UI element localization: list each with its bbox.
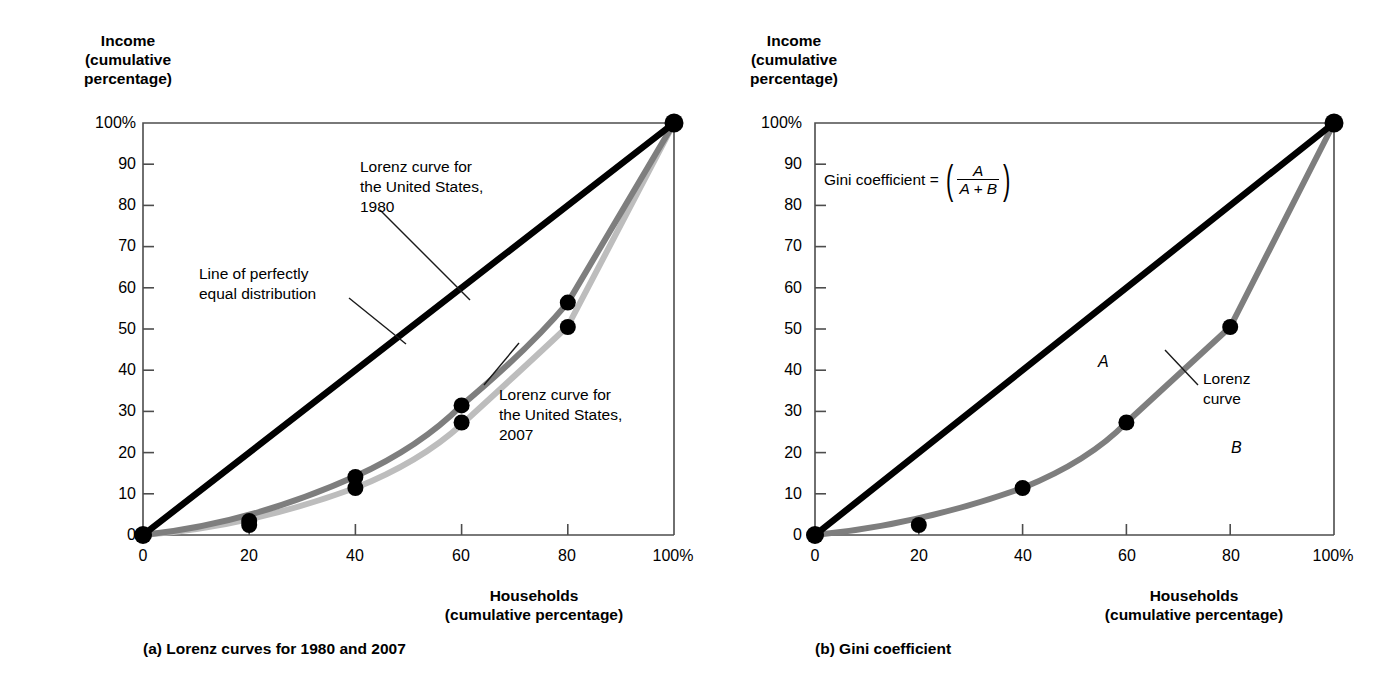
gini-formula-numerator: A bbox=[969, 162, 987, 179]
panel-a-plot bbox=[0, 0, 694, 686]
panel-a-annotation-lorenz-1980: Lorenz curve for the United States, 1980 bbox=[360, 157, 483, 217]
lorenz-curve-figure: Income (cumulative percentage) 100% 90 8… bbox=[0, 0, 1388, 686]
panel-a-caption: (a) Lorenz curves for 1980 and 2007 bbox=[143, 639, 406, 658]
gini-formula-denominator: A + B bbox=[957, 179, 999, 197]
panel-b-annotation-lorenz-curve: Lorenz curve bbox=[1203, 369, 1250, 409]
gini-formula-lead: Gini coefficient = bbox=[824, 171, 943, 189]
gini-formula-open-paren: ( bbox=[946, 163, 953, 197]
gini-coefficient-formula: Gini coefficient = ( A A + B ) bbox=[824, 162, 1013, 197]
panel-a-lorenz-curves: Income (cumulative percentage) 100% 90 8… bbox=[0, 0, 694, 686]
panel-b-plot bbox=[694, 0, 1388, 686]
gini-formula-fraction: A A + B bbox=[957, 162, 999, 197]
panel-b-caption: (b) Gini coefficient bbox=[815, 639, 951, 658]
panel-b-gini-coefficient: Income (cumulative percentage) 100% 90 8… bbox=[694, 0, 1388, 686]
panel-a-annotation-equality-line: Line of perfectly equal distribution bbox=[199, 264, 316, 304]
gini-formula-close-paren: ) bbox=[1003, 163, 1010, 197]
panel-a-annotation-lorenz-2007: Lorenz curve for the United States, 2007 bbox=[499, 385, 622, 445]
panel-a-x-axis-title: Households (cumulative percentage) bbox=[384, 586, 684, 624]
region-label-a: A bbox=[1098, 354, 1109, 370]
region-label-b: B bbox=[1231, 440, 1242, 456]
panel-b-x-axis-title: Households (cumulative percentage) bbox=[1044, 586, 1344, 624]
